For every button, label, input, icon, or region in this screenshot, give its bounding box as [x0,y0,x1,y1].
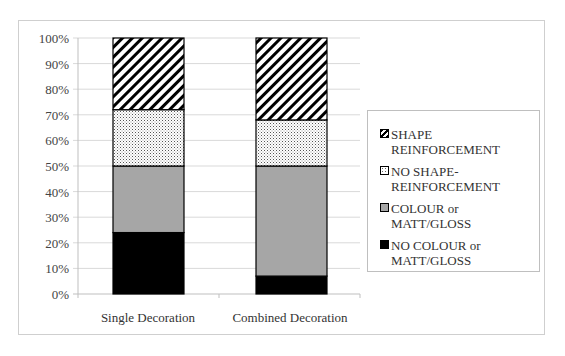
bar-segment [113,233,184,294]
x-category-label: Single Decoration [101,310,196,325]
y-tick-label: 50% [45,159,69,174]
bar-segment [256,276,327,294]
bar-segment [113,110,184,166]
legend-item-colour: COLOUR orMATT/GLOSS [380,201,541,231]
black-swatch-icon [380,240,389,249]
y-tick-label: 80% [45,82,69,97]
bar-segment [113,166,184,233]
legend-item-no-colour: NO COLOUR orMATT/GLOSS [380,238,541,268]
grey-swatch-icon [380,203,389,212]
dots-swatch-icon [380,166,389,175]
hatch-swatch-icon [380,129,389,138]
y-tick-label: 100% [39,31,70,46]
x-category-label: Combined Decoration [232,310,348,325]
y-tick-label: 90% [45,57,69,72]
y-tick-label: 30% [45,210,69,225]
y-tick-label: 70% [45,108,69,123]
y-tick-label: 20% [45,236,69,251]
y-axis-ticks: 0%10%20%30%40%50%60%70%80%90%100% [39,31,70,302]
y-tick-label: 60% [45,133,69,148]
x-axis-labels: Single DecorationCombined Decoration [101,310,348,325]
y-tick-label: 10% [45,261,69,276]
bar-segment [256,38,327,120]
y-tick-label: 0% [52,287,70,302]
bar-segment [256,166,327,276]
legend-item-no-shape-reinforcement: NO SHAPE-REINFORCEMENT [380,164,541,194]
y-tick-label: 40% [45,185,69,200]
bar-segment [113,38,184,110]
legend: SHAPEREINFORCEMENT NO SHAPE-REINFORCEMEN… [367,110,540,272]
bar-segment [256,120,327,166]
legend-item-shape-reinforcement: SHAPEREINFORCEMENT [380,127,541,157]
